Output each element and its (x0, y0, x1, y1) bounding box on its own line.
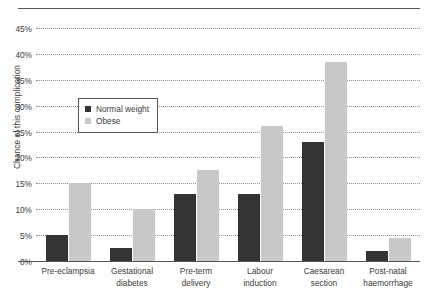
bar-chart-figure: Chance of this complication 0%5%10%15%20… (0, 0, 431, 298)
x-axis-label-line: delivery (164, 278, 228, 290)
bar-obese (69, 183, 91, 261)
bar-group (36, 28, 100, 261)
bar-group (292, 28, 356, 261)
legend-item-label: Normal weight (96, 104, 149, 114)
y-axis-tick-label: 5% (20, 231, 32, 241)
y-axis-tick-label: 15% (15, 179, 32, 189)
y-axis-tick-label: 10% (15, 205, 32, 215)
bar-group (164, 28, 228, 261)
x-axis-label-line: Post-natal (356, 266, 420, 278)
bar-group (228, 28, 292, 261)
x-axis-label-line: diabetes (100, 278, 164, 290)
bar-obese (389, 238, 411, 261)
x-axis-label-line: Pre-eclampsia (36, 266, 100, 278)
y-axis-tick-label: 20% (15, 153, 32, 163)
legend-item-label: Obese (96, 116, 120, 126)
bar-obese (325, 62, 347, 261)
bar-normal-weight (46, 235, 68, 261)
legend-item: Obese (85, 115, 149, 127)
x-axis-label-line: section (292, 278, 356, 290)
x-axis-label: Post-natalhaemorrhage (356, 266, 420, 289)
x-axis-label: Labourinduction (228, 266, 292, 289)
chart-legend: Normal weightObese (78, 98, 158, 133)
x-axis-label: Caesareansection (292, 266, 356, 289)
x-axis-label: Gestationaldiabetes (100, 266, 164, 289)
legend-swatch-icon (85, 118, 91, 124)
x-axis-label-line: haemorrhage (356, 278, 420, 290)
bar-normal-weight (302, 142, 324, 261)
bar-obese (197, 170, 219, 261)
top-rule (18, 8, 420, 9)
x-axis-label-line: induction (228, 278, 292, 290)
bar-group (356, 28, 420, 261)
x-axis-label: Pre-eclampsia (36, 266, 100, 278)
bar-group (100, 28, 164, 261)
x-axis-label-line: Gestational (100, 266, 164, 278)
x-axis-label-line: Caesarean (292, 266, 356, 278)
y-axis-tick-label: 45% (15, 24, 32, 34)
x-axis-label-line: Pre-term (164, 266, 228, 278)
legend-swatch-icon (85, 106, 91, 112)
y-axis-tick-label: 25% (15, 128, 32, 138)
plot-area: 0%5%10%15%20%25%30%35%40%45% (36, 28, 420, 261)
y-axis-tick-label: 30% (15, 102, 32, 112)
bar-normal-weight (366, 251, 388, 261)
bar-normal-weight (174, 194, 196, 261)
y-axis-tick-label: 35% (15, 76, 32, 86)
y-axis-tick-label: 0% (20, 257, 32, 267)
bar-obese (261, 126, 283, 261)
bar-normal-weight (110, 248, 132, 261)
bar-obese (133, 209, 155, 261)
y-axis-tick-label: 40% (15, 50, 32, 60)
x-axis-line (18, 261, 420, 262)
bar-normal-weight (238, 194, 260, 261)
legend-item: Normal weight (85, 103, 149, 115)
y-axis-title: Chance of this complication (12, 37, 22, 197)
x-axis-label: Pre-termdelivery (164, 266, 228, 289)
x-axis-label-line: Labour (228, 266, 292, 278)
